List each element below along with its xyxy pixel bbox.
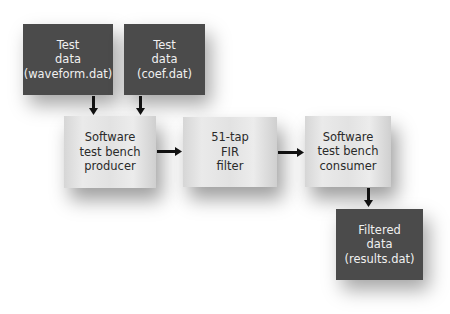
arrow-right-icon xyxy=(278,148,304,157)
results-data-box: Filtered data (results.dat) xyxy=(336,209,423,280)
consumer-box: Software test bench consumer xyxy=(305,116,391,187)
arrow-down-icon xyxy=(89,96,98,115)
producer-box: Software test bench producer xyxy=(64,116,156,188)
arrow-right-icon xyxy=(157,147,182,156)
fir-filter-label: 51-tap FIR filter xyxy=(211,130,249,174)
results-data-label: Filtered data (results.dat) xyxy=(344,223,414,267)
waveform-data-box: Test data (waveform.dat) xyxy=(23,24,113,95)
coef-data-box: Test data (coef.dat) xyxy=(124,24,205,95)
arrow-down-icon xyxy=(364,188,373,207)
coef-data-label: Test data (coef.dat) xyxy=(137,38,192,82)
fir-filter-box: 51-tap FIR filter xyxy=(183,117,277,187)
producer-label: Software test bench producer xyxy=(79,130,140,174)
consumer-label: Software test bench consumer xyxy=(317,130,378,174)
waveform-data-label: Test data (waveform.dat) xyxy=(24,38,113,82)
arrow-down-icon xyxy=(136,96,145,115)
